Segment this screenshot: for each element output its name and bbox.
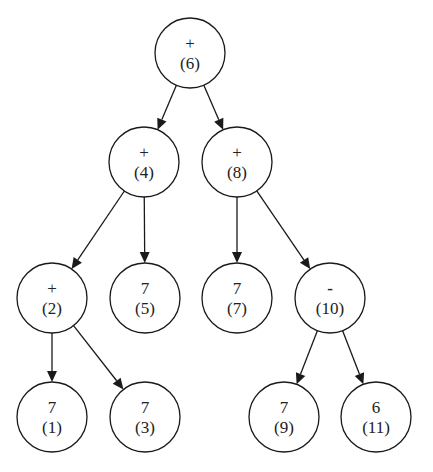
- edge-line: [257, 191, 304, 260]
- tree-node-11: 6(11): [341, 382, 411, 452]
- node-circle: [109, 127, 179, 197]
- edge-line: [162, 85, 177, 119]
- edge-4-to-5: [140, 197, 150, 263]
- arrowhead-icon: [296, 372, 305, 384]
- edge-6-to-4: [157, 85, 176, 130]
- node-label: 7: [141, 398, 150, 417]
- edge-8-to-7: [232, 197, 242, 263]
- tree-node-3: 7(3): [110, 382, 180, 452]
- arrowhead-icon: [140, 252, 150, 263]
- node-index: (9): [274, 418, 294, 437]
- node-circle: [110, 382, 180, 452]
- edge-4-to-2: [72, 191, 125, 269]
- tree-node-9: 7(9): [249, 382, 319, 452]
- node-circle: [155, 18, 225, 88]
- tree-node-7: 7(7): [202, 263, 272, 333]
- node-label: 7: [141, 279, 150, 298]
- arrowhead-icon: [355, 372, 364, 384]
- tree-node-1: 7(1): [17, 382, 87, 452]
- node-circle: [202, 263, 272, 333]
- node-label: +: [232, 143, 242, 162]
- edge-2-to-3: [74, 326, 124, 390]
- node-circle: [110, 263, 180, 333]
- arrowhead-icon: [72, 257, 82, 269]
- edge-line: [74, 326, 117, 381]
- edge-2-to-1: [47, 333, 57, 382]
- tree-node-5: 7(5): [110, 263, 180, 333]
- node-label: 7: [280, 398, 289, 417]
- arrowhead-icon: [300, 257, 310, 269]
- edge-line: [301, 331, 318, 374]
- edge-line: [204, 85, 219, 120]
- node-index: (10): [316, 299, 344, 318]
- node-circle: [341, 382, 411, 452]
- arrowhead-icon: [232, 252, 242, 263]
- node-index: (4): [134, 163, 154, 182]
- edge-8-to-10: [257, 191, 310, 269]
- arrowhead-icon: [47, 371, 57, 382]
- edges-layer: [47, 85, 364, 389]
- tree-node-6: +(6): [155, 18, 225, 88]
- tree-node-4: +(4): [109, 127, 179, 197]
- node-label: +: [185, 34, 195, 53]
- tree-node-8: +(8): [202, 127, 272, 197]
- edge-line: [343, 331, 360, 374]
- node-index: (7): [227, 299, 247, 318]
- node-index: (5): [135, 299, 155, 318]
- node-circle: [295, 263, 365, 333]
- node-index: (6): [180, 54, 200, 73]
- node-label: 7: [48, 398, 57, 417]
- node-label: +: [47, 279, 57, 298]
- edge-line: [78, 191, 125, 260]
- node-index: (3): [135, 418, 155, 437]
- tree-node-10: -(10): [295, 263, 365, 333]
- edge-10-to-11: [343, 331, 364, 385]
- node-circle: [202, 127, 272, 197]
- node-circle: [17, 263, 87, 333]
- node-label: -: [327, 279, 333, 298]
- node-index: (1): [42, 418, 62, 437]
- expression-tree-diagram: +(6)+(4)+(8)+(2)7(5)7(7)-(10)7(1)7(3)7(9…: [0, 0, 433, 472]
- nodes-layer: +(6)+(4)+(8)+(2)7(5)7(7)-(10)7(1)7(3)7(9…: [17, 18, 411, 452]
- node-circle: [249, 382, 319, 452]
- node-label: 6: [372, 398, 381, 417]
- node-index: (11): [362, 418, 390, 437]
- node-label: 7: [233, 279, 242, 298]
- node-index: (2): [42, 299, 62, 318]
- node-circle: [17, 382, 87, 452]
- arrowhead-icon: [113, 378, 124, 390]
- node-label: +: [139, 143, 149, 162]
- edge-10-to-9: [296, 331, 317, 385]
- node-index: (8): [227, 163, 247, 182]
- tree-node-2: +(2): [17, 263, 87, 333]
- edge-6-to-8: [204, 85, 224, 130]
